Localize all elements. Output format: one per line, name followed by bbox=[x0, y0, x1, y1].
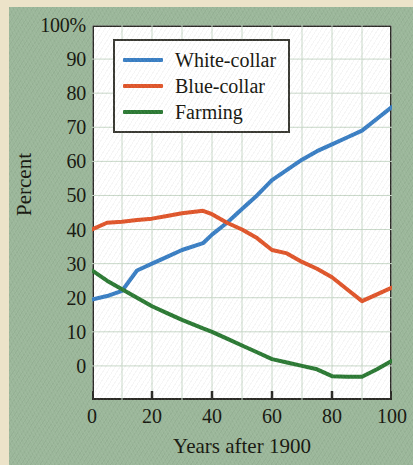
y-axis-tick-label: 40 bbox=[66, 218, 86, 241]
y-axis-tick-label: 10 bbox=[66, 320, 86, 343]
chart-legend: White-collarBlue-collarFarming bbox=[113, 39, 290, 133]
y-axis-tick-label: 60 bbox=[66, 150, 86, 173]
y-axis-tick-label: 20 bbox=[66, 286, 86, 309]
y-axis-tick-label: 90 bbox=[66, 48, 86, 71]
legend-item-label: White-collar bbox=[175, 50, 276, 70]
legend-color-swatch bbox=[123, 58, 163, 62]
legend-color-swatch bbox=[123, 84, 163, 88]
legend-item[interactable]: Blue-collar bbox=[123, 73, 276, 99]
x-axis-tick-label: 20 bbox=[142, 405, 162, 428]
y-axis-tick-label: 70 bbox=[66, 116, 86, 139]
x-axis-tick-label: 0 bbox=[87, 405, 97, 428]
legend-item[interactable]: Farming bbox=[123, 99, 276, 125]
y-axis-tick-label: 50 bbox=[66, 184, 86, 207]
y-axis-title: Percent bbox=[12, 115, 37, 255]
x-axis-tick-label: 60 bbox=[262, 405, 282, 428]
x-axis-tick-label: 80 bbox=[322, 405, 342, 428]
page-margin-top bbox=[0, 0, 413, 7]
figure-canvas: 0102030405060708090100% Percent White-co… bbox=[0, 0, 413, 465]
y-axis-tick-label: 30 bbox=[66, 252, 86, 275]
legend-item[interactable]: White-collar bbox=[123, 47, 276, 73]
x-axis-tick-label: 40 bbox=[202, 405, 222, 428]
legend-color-swatch bbox=[123, 110, 163, 114]
legend-item-label: Blue-collar bbox=[175, 76, 265, 96]
plot-area: White-collarBlue-collarFarming bbox=[92, 25, 392, 400]
y-axis-tick-label: 0 bbox=[76, 354, 86, 377]
x-axis-tick-label: 100 bbox=[377, 405, 407, 428]
y-axis-tick-label: 80 bbox=[66, 82, 86, 105]
x-axis-title: Years after 1900 bbox=[92, 434, 392, 459]
y-axis-tick-label: 100% bbox=[40, 14, 86, 37]
legend-item-label: Farming bbox=[175, 102, 243, 122]
x-axis-tick-labels: 020406080100 bbox=[92, 405, 392, 431]
